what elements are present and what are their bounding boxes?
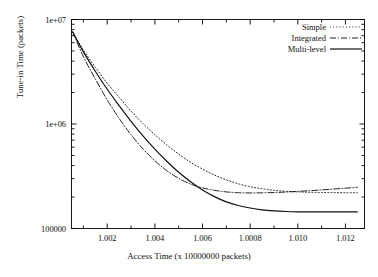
legend-item-multi-level: Multi-level [258,44,362,54]
x-tick-label: 1.004 [146,233,165,243]
chart-figure: 1e+071e+06100000 1.0021.0041.0061.00081.… [0,0,378,277]
legend-label-integrated: Integrated [292,33,326,43]
data-series-group [73,32,358,212]
x-tick-label: 1.012 [336,233,355,243]
legend-item-integrated: Integrated [258,33,362,43]
x-tick-label: 1.010 [288,233,307,243]
legend-label-simple: Simple [302,22,326,32]
chart-legend: Simple Integrated Multi-level [258,19,362,55]
y-tick-label: 100000 [8,224,66,234]
legend-label-multi-level: Multi-level [288,44,326,54]
series-line-multi-level [73,32,358,212]
y-axis-title: Tune-in Time (packets) [15,0,25,137]
x-tick-label: 1.0008 [239,233,262,243]
legend-item-simple: Simple [258,22,362,32]
x-axis-title: Access Time (x 10000000 packets) [0,251,378,261]
x-tick-label: 1.002 [98,233,117,243]
legend-sample-integrated [330,34,362,42]
legend-sample-simple [330,23,362,31]
series-line-integrated [73,32,358,193]
x-tick-label: 1.006 [193,233,212,243]
legend-sample-multi-level [330,45,362,53]
